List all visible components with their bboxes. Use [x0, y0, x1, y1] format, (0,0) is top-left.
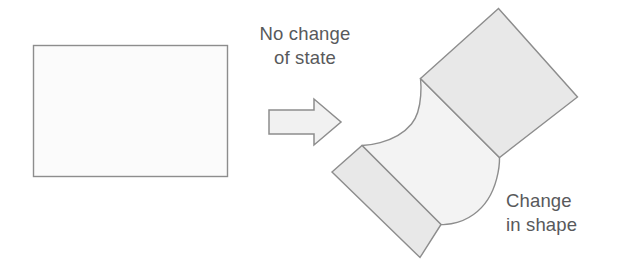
transition-arrow-icon [269, 99, 341, 145]
undeformed-rectangle [34, 46, 228, 177]
change-in-shape-label: Change in shape [506, 189, 632, 236]
figure-canvas: No change of state Change in shape [0, 0, 638, 263]
no-change-of-state-label: No change of state [238, 22, 372, 69]
